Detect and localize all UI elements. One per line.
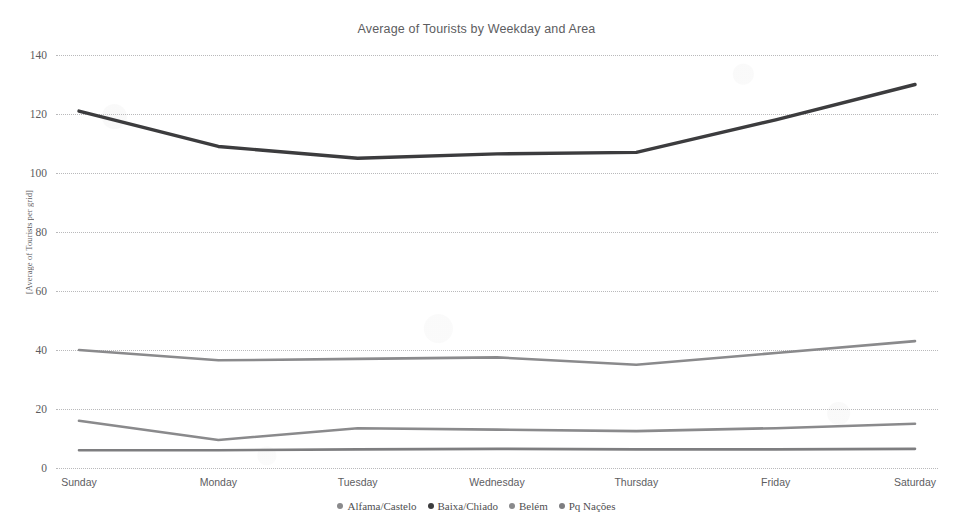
y-axis-tick-label: 80 [36, 226, 57, 238]
y-axis-tick-label: 140 [30, 49, 56, 61]
x-axis-tick-label: Wednesday [469, 476, 524, 488]
series-line [79, 449, 915, 450]
series-line [79, 421, 915, 440]
legend-marker-dot-icon [428, 503, 434, 509]
x-axis-tick-label: Saturday [894, 476, 936, 488]
x-axis-tick-label: Tuesday [338, 476, 378, 488]
legend-marker-dot-icon [337, 503, 343, 509]
series-line [79, 341, 915, 365]
series-line [79, 85, 915, 159]
y-axis-tick-label: 60 [36, 285, 57, 297]
legend-item[interactable]: Baixa/Chiado [428, 500, 499, 512]
x-axis-tick-label: Monday [200, 476, 237, 488]
chart-legend: Alfama/CasteloBaixa/ChiadoBelémPq Nações [0, 500, 953, 512]
legend-item-label: Alfama/Castelo [347, 500, 416, 512]
legend-marker-dot-icon [559, 503, 565, 509]
legend-item[interactable]: Belém [509, 500, 548, 512]
series-lines [56, 55, 938, 468]
legend-item-label: Belém [519, 500, 548, 512]
y-axis-tick-label: 100 [30, 167, 56, 179]
legend-marker-dot-icon [509, 503, 515, 509]
x-axis-tick-label: Sunday [61, 476, 97, 488]
legend-item-label: Pq Nações [569, 500, 616, 512]
x-axis-tick-label: Friday [761, 476, 790, 488]
x-axis-tick-label: Thursday [614, 476, 658, 488]
y-axis-title: [Average of Tourists per grid] [24, 190, 38, 294]
legend-item-label: Baixa/Chiado [438, 500, 499, 512]
gridline [56, 468, 938, 469]
y-axis-tick-label: 0 [41, 462, 56, 474]
y-axis-tick-label: 120 [30, 108, 56, 120]
y-axis-tick-label: 40 [36, 344, 57, 356]
y-axis-tick-label: 20 [36, 403, 57, 415]
legend-item[interactable]: Pq Nações [559, 500, 616, 512]
chart-title: Average of Tourists by Weekday and Area [0, 22, 953, 36]
line-chart: Average of Tourists by Weekday and Area … [0, 0, 953, 530]
plot-area: 020406080100120140 SundayMondayTuesdayWe… [56, 55, 938, 468]
legend-item[interactable]: Alfama/Castelo [337, 500, 416, 512]
